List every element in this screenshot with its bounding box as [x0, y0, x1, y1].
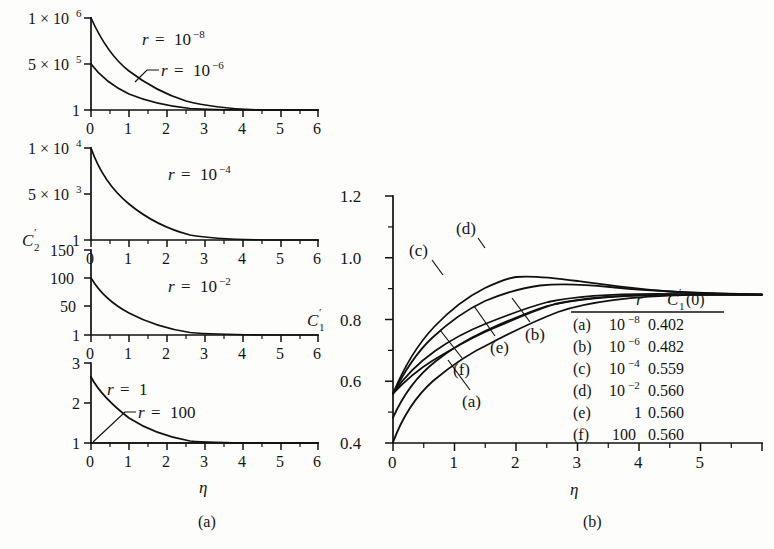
subplot-3-ann1-exp: −2 — [219, 275, 231, 287]
subplot-4-annotation-2: r = 100 — [93, 403, 196, 442]
subplot-1-ylabel-mid: 5 × 10 5 — [28, 53, 82, 73]
panel-a-caption: (a) — [198, 513, 216, 531]
panel-a-subplot-1: 1 × 10 6 5 × 10 5 1 0 1 2 3 4 5 6 r = 10 — [28, 7, 321, 137]
panel-b-xlabel-eta: η — [570, 480, 578, 499]
panel-b-table: r C 1 ′ (0) (a) 10 −8 0.402 (b) — [571, 286, 724, 444]
panel-b-xlabel-2: 2 — [511, 453, 520, 472]
subplot-2-xlabel-5: 5 — [276, 250, 284, 267]
subplot-3-ylabel-mid-hi: 100 — [50, 270, 74, 287]
subplot-3-xlabel-4: 4 — [238, 345, 246, 362]
subplot-3-ylabel-bottom: 1 — [72, 327, 80, 344]
subplot-2-xlabel-2: 2 — [162, 250, 170, 267]
subplot-1-xlabel-1: 1 — [124, 120, 132, 137]
table-header-c-sub: 1 — [679, 300, 685, 312]
subplot-4-ann1-eq: = — [120, 380, 130, 399]
panel-b-ylabel-0.8: 0.8 — [340, 311, 361, 330]
subplot-1-xlabel-3: 3 — [200, 120, 208, 137]
table-row-r-base: 1 — [634, 404, 642, 421]
subplot-4-ylabel-bottom: 1 — [72, 435, 80, 452]
subplot-1-ann2-leader — [135, 70, 159, 82]
subplot-3-xlabel-0: 0 — [86, 345, 94, 362]
table-row-value: 0.482 — [648, 338, 684, 355]
figure-container: C 2 ′ — [0, 0, 774, 549]
table-row-value: 0.560 — [648, 404, 684, 421]
panel-b-ylabel-0.4: 0.4 — [340, 434, 362, 453]
table-row-key: (e) — [573, 404, 591, 422]
subplot-2-ann1-exp: −4 — [219, 163, 231, 175]
panel-b-xlabel-0: 0 — [388, 453, 397, 472]
subplot-1-ylabel-mid-mantissa: 5 × 10 — [28, 56, 69, 73]
panel-b-ylabel-sub: 1 — [319, 321, 325, 333]
subplot-4-ann1-base: 1 — [139, 380, 148, 399]
subplot-3-ylabel-mid-lo: 50 — [60, 298, 76, 315]
subplot-1-ylabel-mid-exp: 5 — [76, 53, 82, 65]
subplot-1-ann2-base: 10 — [193, 61, 210, 80]
subplot-1-ylabel-bottom: 1 — [72, 102, 80, 119]
subplot-4-xlabel-6: 6 — [313, 453, 321, 470]
table-row-r-exp: −8 — [628, 313, 640, 325]
table-row-r-base: 10 — [609, 338, 625, 355]
subplot-1-xlabel-2: 2 — [162, 120, 170, 137]
subplot-1-ylabel-top: 1 × 10 6 — [28, 7, 82, 27]
panel-b-ylabel-1.0: 1.0 — [340, 249, 361, 268]
subplot-2-ann1-var: r — [168, 165, 175, 184]
table-row-value: 0.559 — [648, 360, 684, 377]
subplot-1-ylabel-top-exp: 6 — [76, 7, 82, 19]
subplot-2-xlabel-4: 4 — [238, 250, 246, 267]
subplot-4-xlabel-3: 3 — [200, 453, 208, 470]
table-header-c-prime: ′ — [679, 286, 681, 298]
table-row-value: 0.402 — [648, 316, 684, 333]
subplot-2-ylabel-top-mantissa: 1 × 10 — [28, 140, 69, 157]
table-row: (f) 100 0.560 — [573, 426, 684, 444]
subplot-2-ylabel-mid-exp: 3 — [76, 183, 82, 195]
panel-b-leader-d — [478, 238, 485, 248]
table-row: (c) 10 −4 0.559 — [573, 357, 684, 378]
subplot-3-xlabel-2: 2 — [162, 345, 170, 362]
panel-b-curvelabel-a: (a) — [462, 392, 481, 411]
subplot-3-xlabel-3: 3 — [200, 345, 208, 362]
table-row-key: (f) — [573, 426, 589, 444]
subplot-4-ann2-leader — [93, 412, 136, 442]
panel-b: 1.2 1.0 0.8 0.6 0.4 C 1 ′ 0 1 2 3 4 5 η — [307, 187, 762, 499]
table-row: (e) 1 0.560 — [573, 404, 684, 422]
subplot-4-xlabel-1: 1 — [124, 453, 132, 470]
panel-a-ylabel-prime: ′ — [34, 226, 36, 238]
subplot-4-ylabel-top: 3 — [72, 355, 80, 372]
table-row-key: (c) — [573, 360, 591, 378]
subplot-1-xlabel-5: 5 — [276, 120, 284, 137]
panel-b-curvelabel-c: (c) — [409, 241, 428, 260]
subplot-3-ann1-var: r — [168, 277, 175, 296]
subplot-1-ann2-exp: −6 — [212, 59, 224, 71]
panel-b-xlabel-1: 1 — [450, 453, 459, 472]
subplot-1-ann2-eq: = — [174, 61, 184, 80]
subplot-1-annotation-1: r = 10 −8 — [142, 28, 205, 49]
subplot-4-xlabel-2: 2 — [162, 453, 170, 470]
table-row-r-base: 100 — [612, 426, 636, 443]
subplot-2-ylabel-top-exp: 4 — [76, 137, 82, 149]
panel-b-xlabel-3: 3 — [573, 453, 582, 472]
subplot-1-ann1-exp: −8 — [193, 28, 205, 40]
panel-b-curvelabel-d: (d) — [456, 219, 476, 238]
table-row-key: (b) — [573, 338, 592, 356]
subplot-3-annotation-1: r = 10 −2 — [168, 275, 231, 296]
panel-a-subplot-4: 3 2 1 0 1 2 3 4 5 6 r = 1 r = 100 η — [72, 355, 321, 497]
subplot-4-annotation-1: r = 1 — [107, 380, 148, 399]
subplot-4-xlabel-0: 0 — [86, 453, 94, 470]
subplot-1-ann1-eq: = — [155, 30, 165, 49]
subplot-1-ylabel-top-mantissa: 1 × 10 — [28, 10, 69, 27]
table-row-value: 0.560 — [648, 382, 684, 399]
subplot-1-xlabel-4: 4 — [238, 120, 246, 137]
subplot-3-xlabel-6: 6 — [313, 345, 321, 362]
subplot-1-ann2-var: r — [161, 61, 168, 80]
subplot-2-ann1-base: 10 — [200, 165, 217, 184]
panel-b-y-axis-label: C 1 ′ — [307, 306, 325, 333]
subplot-4-ann2-base: 100 — [170, 403, 196, 422]
table-row-key: (a) — [573, 316, 591, 334]
table-row-r-base: 10 — [609, 360, 625, 377]
subplot-2-xlabel-0: 0 — [86, 250, 94, 267]
subplot-2-xlabel-1: 1 — [124, 250, 132, 267]
table-row-key: (d) — [573, 382, 592, 400]
table-row-r-exp: −4 — [628, 357, 640, 369]
subplot-2-ann1-eq: = — [181, 165, 191, 184]
subplot-4-ann2-eq: = — [151, 403, 161, 422]
